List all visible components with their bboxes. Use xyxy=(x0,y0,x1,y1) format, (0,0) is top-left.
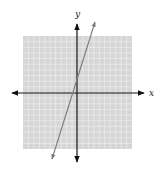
coordinate-graph: y x xyxy=(0,0,162,172)
x-axis-label: x xyxy=(149,88,154,98)
y-axis-label: y xyxy=(74,9,81,19)
